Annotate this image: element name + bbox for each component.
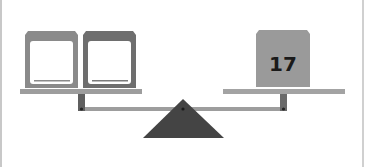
left-box-2 (83, 31, 136, 88)
fulcrum-triangle (143, 99, 224, 138)
balance-scale-diagram: 17 (0, 0, 365, 167)
left-pivot (80, 107, 83, 110)
fulcrum-pivot (181, 107, 184, 110)
scale-drawing: 17 (0, 0, 365, 167)
left-box-1 (25, 31, 78, 88)
right-box: 17 (256, 30, 310, 87)
answer-blank-line-2 (92, 80, 128, 82)
answer-blank-line-1 (34, 80, 70, 82)
right-pivot (282, 107, 285, 110)
right-box-value: 17 (269, 52, 297, 76)
right-platform (223, 89, 345, 94)
left-platform (20, 89, 142, 94)
